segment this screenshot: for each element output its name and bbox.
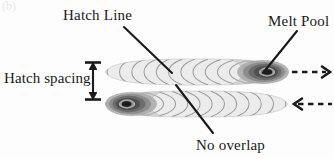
label-hatch-line: Hatch Line: [63, 8, 132, 23]
dashed-arrow-left-icon: [294, 99, 332, 110]
dashed-arrow-right-icon: [292, 67, 330, 78]
label-no-overlap: No overlap: [196, 138, 265, 153]
panel-tag: (b): [2, 0, 16, 12]
leader-line-hatch-line-icon: [124, 27, 172, 73]
figure-container: (b) Hatch Line Melt Pool Hatch spacing N…: [0, 0, 334, 159]
label-melt-pool: Melt Pool: [268, 14, 329, 29]
label-hatch-spacing: Hatch spacing: [4, 71, 91, 86]
leader-line-melt-pool-icon: [263, 31, 297, 73]
leader-line-no-overlap-icon: [176, 85, 213, 133]
